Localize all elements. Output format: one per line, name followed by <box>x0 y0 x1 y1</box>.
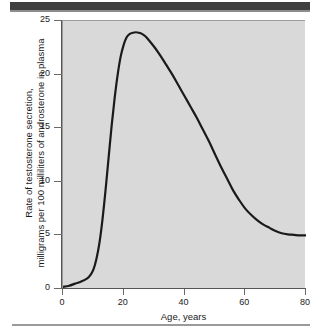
x-tick-20 <box>123 289 124 295</box>
x-axis-title: Age, years <box>62 311 305 322</box>
x-tick-label-60: 60 <box>229 297 259 307</box>
y-axis-title: Rate of testosterone secretion, milligra… <box>18 18 52 288</box>
y-tick-label-5: 5 <box>10 229 50 238</box>
plot-area <box>62 20 305 288</box>
y-tick-label-10: 10 <box>10 176 50 185</box>
chart-line-svg <box>63 21 306 289</box>
x-tick-80 <box>305 289 306 295</box>
y-axis-line <box>61 20 62 289</box>
x-tick-40 <box>184 289 185 295</box>
x-tick-60 <box>244 289 245 295</box>
y-tick-label-0: 0 <box>10 283 50 292</box>
x-tick-0 <box>62 289 63 295</box>
y-axis-title-line-1: Rate of testosterone secretion, <box>23 88 35 217</box>
x-tick-label-20: 20 <box>108 297 138 307</box>
chart-figure: 0510152025 020406080 Age, years Rate of … <box>0 12 322 322</box>
x-tick-label-80: 80 <box>290 297 320 307</box>
testosterone-curve <box>63 32 306 287</box>
decorative-bottom-rule <box>12 324 310 326</box>
y-tick-label-20: 20 <box>10 69 50 78</box>
x-tick-label-40: 40 <box>169 297 199 307</box>
y-tick-5 <box>54 234 62 235</box>
y-tick-label-25: 25 <box>10 15 50 24</box>
x-tick-label-0: 0 <box>47 297 77 307</box>
y-tick-25 <box>54 20 62 21</box>
y-tick-20 <box>54 74 62 75</box>
y-tick-0 <box>54 288 62 289</box>
y-tick-10 <box>54 181 62 182</box>
y-tick-15 <box>54 127 62 128</box>
y-tick-label-15: 15 <box>10 122 50 131</box>
